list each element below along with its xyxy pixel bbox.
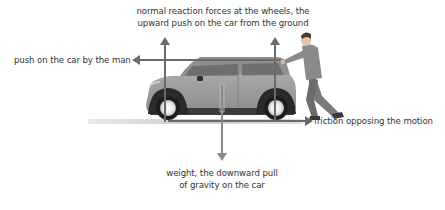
label-normal-line1: normal reaction forces at the wheels, th… <box>128 5 318 17</box>
arrow-friction <box>168 116 313 126</box>
label-weight-line2: of gravity on the car <box>160 179 284 191</box>
label-normal-reaction: normal reaction forces at the wheels, th… <box>128 5 318 29</box>
label-weight-line1: weight, the downward pull <box>160 167 284 179</box>
label-normal-line2: upward push on the car from the ground <box>128 17 318 29</box>
label-friction: friction opposing the motion <box>314 115 433 127</box>
label-weight: weight, the downward pull of gravity on … <box>160 167 284 191</box>
label-push: push on the car by the man <box>14 54 131 66</box>
